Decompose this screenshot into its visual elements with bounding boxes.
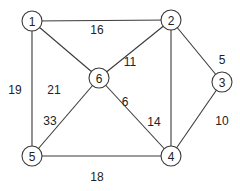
edge-weight-1-6: 21 bbox=[47, 83, 61, 97]
edge-weight-2-4: 14 bbox=[147, 115, 161, 129]
node-2: 2 bbox=[161, 10, 181, 30]
edge-2-3 bbox=[171, 20, 222, 82]
edge-weight-2-3: 5 bbox=[219, 53, 226, 67]
edge-1-2 bbox=[32, 20, 171, 21]
edge-weight-1-2: 16 bbox=[90, 23, 104, 37]
edge-weight-6-4: 6 bbox=[122, 95, 129, 109]
edge-weight-3-4: 10 bbox=[215, 114, 229, 128]
edge-weight-2-6: 11 bbox=[124, 55, 137, 69]
node-label: 5 bbox=[29, 150, 36, 164]
edge-6-5 bbox=[32, 78, 99, 156]
node-label: 3 bbox=[219, 76, 226, 90]
node-label: 2 bbox=[168, 14, 175, 28]
node-label: 6 bbox=[96, 72, 103, 86]
node-1: 1 bbox=[22, 11, 42, 31]
node-6: 6 bbox=[89, 68, 109, 88]
node-label: 1 bbox=[29, 15, 36, 29]
node-label: 4 bbox=[168, 150, 175, 164]
node-3: 3 bbox=[212, 72, 232, 92]
node-4: 4 bbox=[161, 146, 181, 166]
edge-weight-1-5: 19 bbox=[8, 83, 22, 97]
graph-canvas: 161921115146103318 123456 bbox=[0, 0, 240, 191]
edge-2-6 bbox=[99, 20, 171, 78]
node-5: 5 bbox=[22, 146, 42, 166]
graph-diagram: 161921115146103318 123456 bbox=[0, 0, 240, 191]
edge-1-6 bbox=[32, 21, 99, 78]
edge-weight-6-5: 33 bbox=[43, 114, 57, 128]
edge-weight-5-4: 18 bbox=[90, 170, 104, 184]
